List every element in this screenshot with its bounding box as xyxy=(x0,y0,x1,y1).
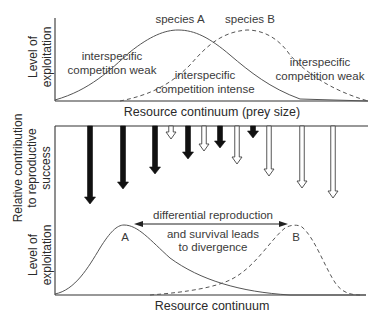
divergence-annotation-line3: to divergence xyxy=(178,241,247,253)
bottom-panel: Level of exploitation A B differential r… xyxy=(26,205,366,313)
curve-a-label: A xyxy=(121,231,129,243)
middle-panel: Relative contribution to reproductive su… xyxy=(11,114,368,223)
top-xlabel: Resource continuum (prey size) xyxy=(124,105,300,119)
curve-b-label: B xyxy=(292,231,300,243)
right-competition-weak-line2: competition weak xyxy=(276,70,365,82)
species-b-arrow xyxy=(232,126,242,164)
species-a-arrow xyxy=(150,126,161,174)
middle-competition-intense-line1: interspecific xyxy=(175,69,236,81)
divergence-arrowhead-right xyxy=(279,221,288,227)
species-b-label: species B xyxy=(225,13,275,25)
middle-ylabel-line3: success xyxy=(39,146,53,189)
reproductive-success-arrows xyxy=(85,126,339,204)
species-a-arrow xyxy=(85,126,96,204)
species-b-arrow xyxy=(297,126,307,188)
species-a-arrow xyxy=(248,126,259,138)
divergence-annotation-line2: and survival leads xyxy=(167,228,259,240)
species-a-arrow xyxy=(183,126,194,159)
top-panel: Level of exploitation species A species … xyxy=(26,13,368,119)
divergence-diagram: Level of exploitation species A species … xyxy=(0,0,380,318)
top-ylabel-line1: Level of xyxy=(26,35,40,78)
divergence-arrowhead-left xyxy=(134,221,143,227)
species-a-label: species A xyxy=(155,13,205,25)
middle-competition-intense-line2: competition intense xyxy=(155,83,254,95)
middle-ylabel-line1: Relative contribution xyxy=(11,114,25,223)
species-a-arrow xyxy=(118,126,129,189)
species-b-arrow xyxy=(166,126,176,139)
middle-ylabel-line2: to reproductive xyxy=(25,128,39,208)
bottom-ylabel-line1: Level of xyxy=(26,233,40,276)
bottom-xlabel: Resource continuum xyxy=(155,299,270,313)
left-competition-weak-line2: competition weak xyxy=(68,64,157,76)
top-ylabel-line2: exploitation xyxy=(40,27,54,88)
bottom-ylabel-line2: exploitation xyxy=(40,225,54,286)
species-a-arrow xyxy=(215,126,226,148)
species-b-arrow xyxy=(264,126,274,176)
species-b-arrow xyxy=(199,126,209,151)
divergence-annotation-line1: differential reproduction xyxy=(153,209,273,221)
species-b-arrow xyxy=(328,126,338,198)
right-competition-weak-line1: interspecific xyxy=(290,56,351,68)
left-competition-weak-line1: interspecific xyxy=(82,50,143,62)
